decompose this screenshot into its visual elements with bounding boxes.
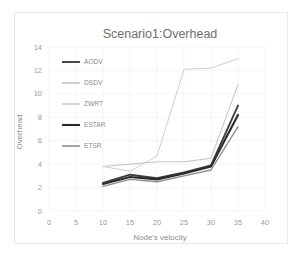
y-axis-label: Overhead bbox=[15, 114, 24, 149]
legend-label-estar: ESTAR bbox=[84, 121, 106, 128]
y-axis-tick-label: 8 bbox=[38, 113, 42, 122]
chart-figure: 02468101214 0510152025303540 AODVDSDVZWR… bbox=[0, 0, 301, 263]
x-axis-label: Node's velocity bbox=[133, 233, 187, 242]
x-axis-tick-labels: 0510152025303540 bbox=[47, 218, 269, 227]
x-axis-tick-label: 20 bbox=[153, 218, 161, 227]
x-axis-tick-label: 5 bbox=[74, 218, 78, 227]
legend-label-dsdv: DSDV bbox=[84, 79, 103, 86]
chart-title: Scenario1:Overhead bbox=[103, 27, 218, 41]
x-axis-tick-label: 15 bbox=[126, 218, 134, 227]
y-axis-tick-label: 6 bbox=[38, 136, 42, 145]
legend-label-etsr: ETSR bbox=[84, 142, 102, 149]
y-axis-tick-label: 0 bbox=[38, 207, 42, 216]
x-axis-tick-label: 10 bbox=[99, 218, 107, 227]
gridlines-group bbox=[49, 47, 265, 211]
overhead-line-chart: 02468101214 0510152025303540 AODVDSDVZWR… bbox=[0, 0, 301, 263]
legend-label-zwrt: ZWRT bbox=[84, 100, 103, 107]
x-axis-tick-label: 35 bbox=[234, 218, 242, 227]
legend: AODVDSDVZWRTESTARETSR bbox=[62, 58, 106, 149]
x-axis-tick-label: 0 bbox=[47, 218, 51, 227]
y-axis-tick-label: 12 bbox=[34, 66, 42, 75]
y-axis-tick-label: 14 bbox=[34, 43, 42, 52]
data-series-group bbox=[103, 59, 238, 187]
y-axis-tick-labels: 02468101214 bbox=[34, 43, 42, 216]
x-axis-tick-label: 30 bbox=[207, 218, 215, 227]
y-axis-tick-label: 10 bbox=[34, 89, 42, 98]
y-axis-tick-label: 2 bbox=[38, 183, 42, 192]
x-axis-tick-label: 40 bbox=[261, 218, 269, 227]
y-axis-tick-label: 4 bbox=[38, 160, 42, 169]
legend-label-aodv: AODV bbox=[84, 58, 103, 65]
x-axis-tick-label: 25 bbox=[180, 218, 188, 227]
